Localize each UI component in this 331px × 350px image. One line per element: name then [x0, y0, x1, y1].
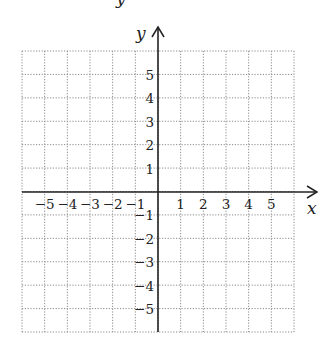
x-axis-label: x: [307, 198, 317, 218]
y-tick-label: −5: [134, 301, 154, 317]
partial-y-label: y: [115, 0, 126, 8]
x-tick-label: 1: [176, 196, 185, 212]
y-tick-label: −1: [134, 207, 154, 223]
y-tick-label: −4: [134, 278, 154, 294]
x-tick-label: 3: [222, 196, 231, 212]
y-tick-label: 1: [145, 161, 154, 177]
x-tick-label: 5: [267, 196, 276, 212]
x-tick-label: −5: [35, 196, 55, 212]
axes: [22, 27, 317, 332]
y-tick-label: 4: [145, 90, 154, 106]
y-tick-label: −2: [134, 231, 154, 247]
y-axis-label: y: [135, 23, 146, 43]
y-tick-label: 5: [145, 67, 154, 83]
x-tick-label: 2: [199, 196, 208, 212]
y-tick-label: 3: [145, 114, 154, 130]
x-tick-labels: −5−4−3−2−112345: [35, 196, 276, 212]
x-tick-label: −3: [80, 196, 100, 212]
x-tick-label: 4: [244, 196, 253, 212]
x-tick-label: −4: [57, 196, 77, 212]
y-tick-label: 2: [145, 137, 154, 153]
coordinate-plane: −5−4−3−2−112345 54321−1−2−3−4−5 y y x: [0, 0, 331, 350]
y-tick-label: −3: [134, 254, 154, 270]
x-tick-label: −2: [103, 196, 123, 212]
